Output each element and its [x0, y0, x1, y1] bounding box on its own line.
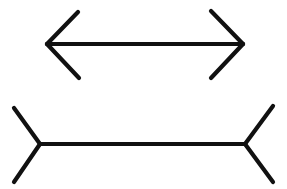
canvas-background [0, 0, 287, 189]
muller-lyer-figure-canvas [0, 0, 287, 189]
